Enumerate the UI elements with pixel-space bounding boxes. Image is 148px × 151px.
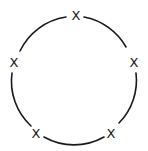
cycle-diagram: X X X X X [0, 0, 148, 151]
arcs [11, 17, 136, 145]
arc-n1-n2 [84, 17, 126, 47]
nodes: X X X X X [10, 8, 139, 141]
arc-n3-n4 [44, 137, 104, 145]
node-n1: X [72, 8, 81, 23]
arc-n5-n1 [20, 17, 66, 51]
node-n4: X [32, 126, 41, 141]
arc-n4-n5 [11, 73, 31, 126]
node-n5: X [10, 55, 19, 70]
node-n3: X [107, 126, 116, 141]
arc-n2-n3 [119, 73, 136, 123]
node-n2: X [130, 55, 139, 70]
